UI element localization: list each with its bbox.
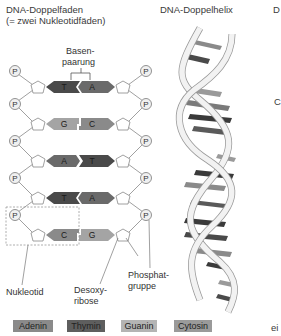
base-pair-3: A T bbox=[46, 155, 115, 167]
base-pair-5: C G bbox=[46, 229, 115, 241]
svg-text:G: G bbox=[89, 230, 96, 240]
svg-text:P: P bbox=[143, 211, 148, 220]
sugar-pentagon-icon bbox=[31, 81, 45, 93]
svg-text:A: A bbox=[61, 156, 67, 166]
sugar-pentagon-icon bbox=[116, 229, 130, 241]
sugar-pentagon-icon bbox=[116, 81, 130, 93]
svg-text:P: P bbox=[12, 137, 17, 146]
sugar-pentagon-icon bbox=[116, 118, 130, 130]
svg-text:A: A bbox=[89, 193, 95, 203]
dna-ladder-diagram: P P P P P P P P P P T bbox=[0, 0, 281, 336]
sugar-pentagon-icon bbox=[116, 192, 130, 204]
legend-adenin-label: Adenin bbox=[19, 321, 47, 331]
dna-helix-illustration bbox=[179, 28, 236, 312]
svg-text:P: P bbox=[12, 174, 17, 183]
legend-adenin: Adenin bbox=[13, 320, 53, 332]
svg-text:P: P bbox=[143, 137, 148, 146]
svg-text:P: P bbox=[143, 67, 148, 76]
legend-thymin-label: Thymin bbox=[71, 321, 101, 331]
sugar-pentagon-icon bbox=[31, 155, 45, 167]
desoxyribose-group bbox=[31, 81, 130, 241]
phosphate-right-group: P P P P P bbox=[141, 66, 152, 221]
svg-text:P: P bbox=[12, 211, 17, 220]
base-pair-4: T A bbox=[46, 192, 115, 204]
left-backbone bbox=[18, 74, 33, 233]
legend-thymin: Thymin bbox=[67, 320, 105, 332]
svg-text:P: P bbox=[143, 174, 148, 183]
sugar-pentagon-icon bbox=[31, 192, 45, 204]
svg-text:C: C bbox=[89, 119, 95, 129]
svg-text:C: C bbox=[61, 230, 67, 240]
legend-guanin: Guanin bbox=[121, 320, 157, 332]
legend-guanin-label: Guanin bbox=[124, 321, 153, 331]
svg-text:T: T bbox=[89, 156, 94, 166]
svg-text:A: A bbox=[89, 82, 95, 92]
base-pair-2: G C bbox=[46, 118, 115, 130]
svg-text:P: P bbox=[12, 67, 17, 76]
sugar-pentagon-icon bbox=[31, 229, 45, 241]
svg-text:P: P bbox=[143, 100, 148, 109]
basenpaarung-bracket bbox=[71, 68, 90, 80]
legend-cytosin-label: Cytosin bbox=[178, 321, 208, 331]
sugar-pentagon-icon bbox=[31, 118, 45, 130]
svg-text:G: G bbox=[61, 119, 68, 129]
phosphate-left-group: P P P P P bbox=[10, 66, 21, 221]
svg-text:T: T bbox=[61, 82, 66, 92]
svg-text:T: T bbox=[61, 193, 66, 203]
right-backbone bbox=[128, 74, 143, 233]
sugar-pentagon-icon bbox=[116, 155, 130, 167]
svg-text:P: P bbox=[12, 100, 17, 109]
legend-cytosin: Cytosin bbox=[174, 320, 212, 332]
base-pair-1: T A bbox=[46, 81, 115, 93]
